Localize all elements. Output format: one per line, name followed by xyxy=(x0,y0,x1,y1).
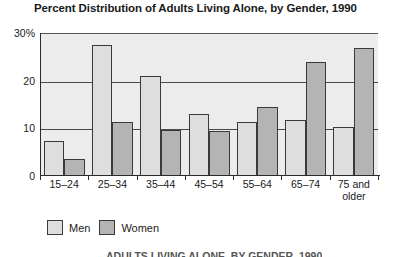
source-note: ADULTS LIVING ALONE, BY GENDER, 1990 xyxy=(106,250,322,257)
y-tick-label: 30% xyxy=(0,27,35,39)
bar-women-35-44 xyxy=(161,130,182,176)
bar-men-25-34 xyxy=(92,45,113,176)
bar-men-55-64 xyxy=(237,122,258,176)
chart-figure: Percent Distribution of Adults Living Al… xyxy=(0,0,394,257)
bar-women-45-54 xyxy=(209,131,230,176)
legend-label: Men xyxy=(69,222,90,234)
x-tick-label: 45–54 xyxy=(185,179,233,191)
x-tick-label: 65–74 xyxy=(281,179,329,191)
legend-swatch-women xyxy=(99,220,115,235)
chart-legend: MenWomen xyxy=(47,220,159,235)
bar-men-65-74 xyxy=(285,120,306,176)
x-tick-label: 35–44 xyxy=(137,179,185,191)
plot-area xyxy=(40,33,378,176)
x-tick-label: 75 andolder xyxy=(330,179,378,202)
y-axis-line xyxy=(40,33,41,175)
bar-men-15-24 xyxy=(44,141,65,176)
x-tick-label: 55–64 xyxy=(233,179,281,191)
y-tick-label: 10 xyxy=(0,122,35,134)
bar-women-55-64 xyxy=(257,107,278,176)
x-tick-mark xyxy=(378,175,379,180)
bar-women-15-24 xyxy=(64,159,85,176)
chart-title: Percent Distribution of Adults Living Al… xyxy=(34,2,357,14)
legend-item-women: Women xyxy=(99,220,159,235)
bar-men-45-54 xyxy=(189,114,210,176)
legend-item-men: Men xyxy=(47,220,90,235)
legend-swatch-men xyxy=(47,220,63,235)
bar-women-65-74 xyxy=(306,62,327,176)
x-tick-label: 25–34 xyxy=(88,179,136,191)
bar-women-25-34 xyxy=(112,122,133,176)
bar-men-35-44 xyxy=(140,76,161,176)
legend-label: Women xyxy=(121,222,159,234)
x-tick-label: 15–24 xyxy=(40,179,88,191)
bar-women-75-and-older xyxy=(354,48,375,176)
y-tick-label: 0 xyxy=(0,170,35,182)
gridline-20 xyxy=(40,82,378,83)
y-tick-label: 20 xyxy=(0,75,35,87)
bar-men-75-and-older xyxy=(333,127,354,176)
